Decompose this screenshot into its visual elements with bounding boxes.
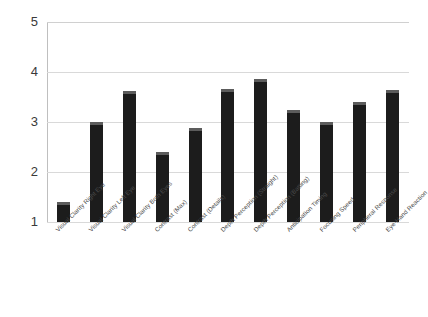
bar[interactable] <box>287 110 300 222</box>
bar[interactable] <box>123 91 136 222</box>
plot-area <box>47 22 409 222</box>
bar[interactable] <box>353 102 366 222</box>
bar-slot <box>212 22 245 222</box>
bar[interactable] <box>320 122 333 222</box>
y-tick-label: 3 <box>8 115 38 128</box>
bar[interactable] <box>90 122 103 222</box>
bar-slot <box>179 22 212 222</box>
y-tick-label: 5 <box>8 15 38 28</box>
bar-slot <box>310 22 343 222</box>
bar-slot <box>343 22 376 222</box>
y-tick-label: 2 <box>8 165 38 178</box>
y-axis-tick-labels: 5 4 3 2 1 <box>0 0 40 317</box>
y-tick-label: 1 <box>8 215 38 228</box>
bar[interactable] <box>386 90 399 222</box>
bar[interactable] <box>221 89 234 222</box>
bars-layer <box>47 22 409 222</box>
bar[interactable] <box>189 128 202 222</box>
y-tick-label: 4 <box>8 65 38 78</box>
bar-slot <box>47 22 80 222</box>
